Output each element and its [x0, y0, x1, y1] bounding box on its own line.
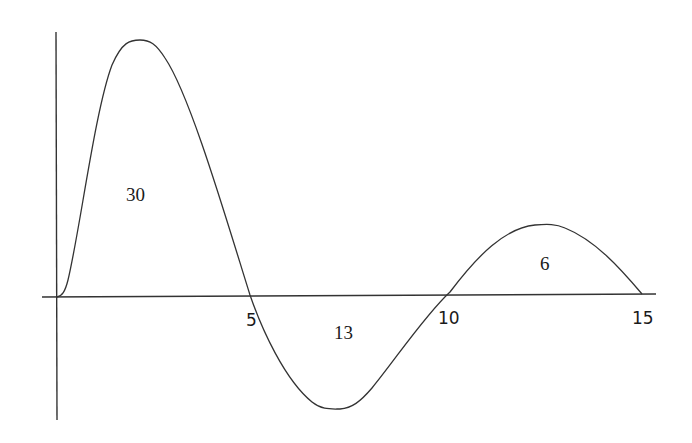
x-tick-5: 5 — [246, 312, 257, 329]
x-tick-15: 15 — [632, 310, 654, 327]
area-label-2: 13 — [334, 323, 353, 342]
curve-line — [57, 40, 642, 409]
area-label-3: 6 — [540, 254, 550, 273]
x-tick-10: 10 — [438, 310, 460, 327]
plot-canvas — [0, 0, 692, 443]
x-axis — [42, 294, 656, 297]
chart: 30 13 6 5 10 15 — [0, 0, 692, 443]
y-axis — [56, 32, 57, 420]
area-label-1: 30 — [126, 185, 145, 204]
